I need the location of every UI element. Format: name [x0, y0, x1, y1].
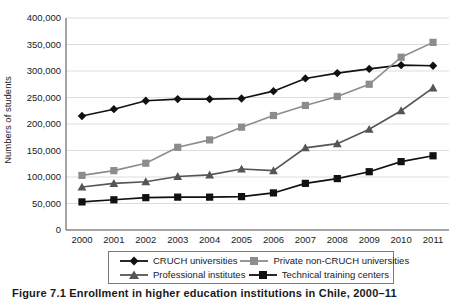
legend-row-1: CRUCH universities Private non-CRUCH uni… — [113, 254, 389, 268]
data-point-marker-triangle — [397, 106, 406, 114]
data-point-marker-square — [429, 39, 436, 46]
x-axis-tick-label: 2001 — [103, 234, 124, 245]
y-axis-tick-label: 200,000 — [27, 118, 61, 129]
data-point-marker-square — [206, 194, 213, 201]
data-point-marker-square — [142, 194, 149, 201]
data-series — [78, 39, 438, 206]
data-point-marker-triangle — [333, 139, 342, 147]
y-axis-tick-label: 250,000 — [27, 92, 61, 103]
legend-swatch-square-gray-icon — [239, 255, 269, 267]
legend-label-private-non-cruch-universities: Private non-CRUCH universities — [273, 255, 409, 267]
legend-swatch-triangle-icon — [119, 269, 149, 281]
data-point-marker-square — [78, 198, 85, 205]
figure-container: 050,000100,000150,000200,000250,000300,0… — [0, 0, 454, 299]
data-point-marker-diamond — [237, 94, 245, 102]
y-axis-tick-label: 50,000 — [32, 198, 61, 209]
legend-label-cruch-universities: CRUCH universities — [153, 255, 237, 267]
series-line — [82, 156, 433, 202]
legend-item-professional-institutes[interactable]: Professional institutes — [119, 269, 246, 281]
x-axis-tick-label: 2002 — [135, 234, 156, 245]
line-chart: 050,000100,000150,000200,000250,000300,0… — [0, 0, 454, 248]
data-point-marker-square — [78, 172, 85, 179]
data-point-marker-square — [110, 167, 117, 174]
y-axis-tick-label: 350,000 — [27, 39, 61, 50]
data-point-marker-square — [334, 175, 341, 182]
legend-swatch-square-black-icon — [248, 269, 278, 281]
x-axis-tick-label: 2006 — [263, 234, 284, 245]
x-axis-tick-labels: 2000200120022003200420052006200720082009… — [71, 234, 443, 245]
series-line — [82, 42, 433, 175]
x-axis-tick-label: 2003 — [167, 234, 188, 245]
x-axis-tick-label: 2011 — [423, 234, 443, 245]
data-point-marker-square — [366, 168, 373, 175]
y-axis-tick-label: 400,000 — [27, 12, 61, 23]
series-line — [82, 65, 433, 116]
data-point-marker-square — [366, 81, 373, 88]
data-point-marker-square — [429, 152, 436, 159]
data-point-marker-diamond — [78, 112, 86, 120]
series-cruch-universities — [78, 61, 437, 120]
x-axis-tick-label: 2004 — [199, 234, 220, 245]
x-axis-tick-label: 2009 — [359, 234, 380, 245]
data-point-marker-square — [238, 124, 245, 131]
data-point-marker-square — [398, 54, 405, 61]
x-axis-tick-label: 2010 — [391, 234, 412, 245]
data-point-marker-diamond — [365, 65, 373, 73]
legend-item-private-non-cruch-universities[interactable]: Private non-CRUCH universities — [239, 255, 409, 267]
x-axis-tick-label: 2007 — [295, 234, 316, 245]
data-point-marker-diamond — [269, 87, 277, 95]
data-point-marker-square — [206, 136, 213, 143]
data-point-marker-diamond — [429, 62, 437, 70]
series-technical-training-centers — [78, 152, 436, 205]
x-axis-tick-label: 2000 — [71, 234, 92, 245]
data-point-marker-square — [238, 193, 245, 200]
legend-item-technical-training-centers[interactable]: Technical training centers — [248, 269, 389, 281]
data-point-marker-diamond — [333, 69, 341, 77]
figure-caption: Figure 7.1 Enrollment in higher educatio… — [12, 287, 442, 299]
legend-swatch-diamond-icon — [119, 255, 149, 267]
legend-label-professional-institutes: Professional institutes — [153, 269, 245, 281]
y-axis-tick-label: 150,000 — [27, 145, 61, 156]
x-axis-tick-label: 2008 — [327, 234, 348, 245]
data-point-marker-diamond — [174, 95, 182, 103]
data-point-marker-square — [142, 160, 149, 167]
chart-legend: CRUCH universities Private non-CRUCH uni… — [108, 251, 394, 284]
data-point-marker-triangle — [429, 84, 438, 92]
y-axis-tick-labels: 050,000100,000150,000200,000250,000300,0… — [27, 12, 61, 235]
data-point-marker-square — [174, 144, 181, 151]
data-point-marker-square — [334, 93, 341, 100]
x-axis-tick-label: 2005 — [231, 234, 252, 245]
data-point-marker-square — [110, 196, 117, 203]
y-axis-title: Numbers of students — [2, 76, 13, 164]
data-point-marker-square — [302, 180, 309, 187]
legend-item-cruch-universities[interactable]: CRUCH universities — [119, 255, 237, 267]
data-point-marker-diamond — [205, 95, 213, 103]
series-private-non-cruch-universities — [78, 39, 436, 179]
y-axis-tick-label: 0 — [56, 224, 61, 235]
series-professional-institutes — [78, 84, 438, 191]
legend-label-technical-training-centers: Technical training centers — [282, 269, 389, 281]
data-point-marker-square — [302, 102, 309, 109]
data-point-marker-square — [174, 194, 181, 201]
gridlines — [66, 18, 449, 204]
legend-row-2: Professional institutes Technical traini… — [113, 268, 389, 282]
data-point-marker-square — [270, 112, 277, 119]
data-point-marker-diamond — [110, 105, 118, 113]
y-axis-tick-label: 300,000 — [27, 65, 61, 76]
data-point-marker-square — [398, 158, 405, 165]
data-point-marker-diamond — [301, 74, 309, 82]
data-point-marker-diamond — [397, 61, 405, 69]
data-point-marker-triangle — [365, 125, 374, 133]
y-axis-tick-label: 100,000 — [27, 171, 61, 182]
data-point-marker-square — [270, 189, 277, 196]
